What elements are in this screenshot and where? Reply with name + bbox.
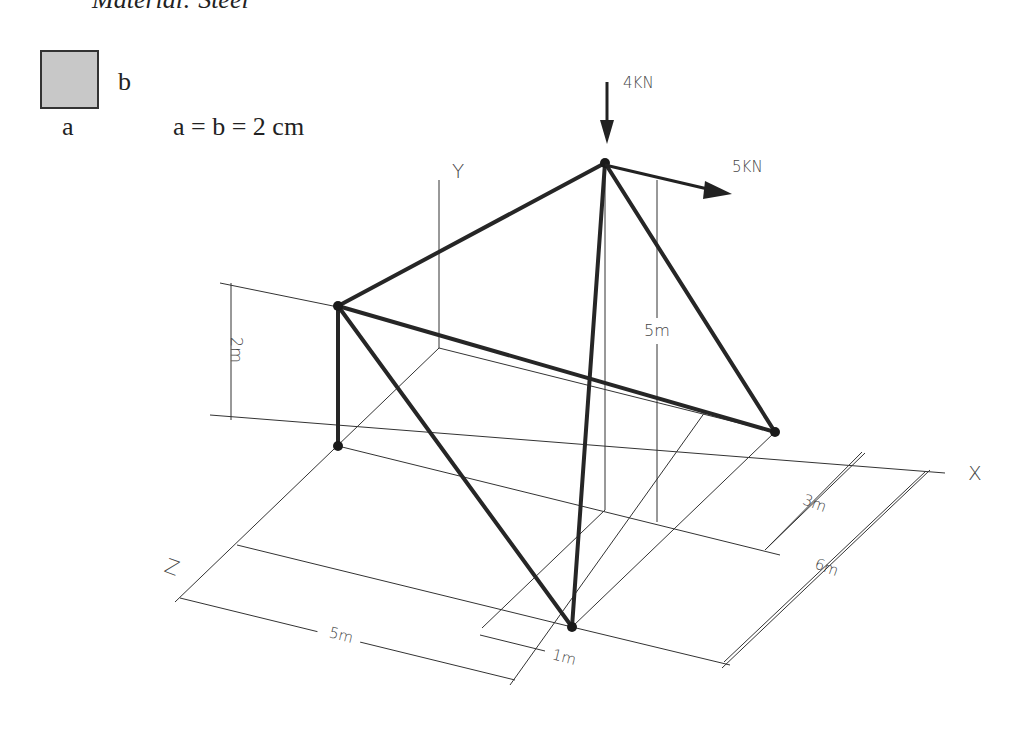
dimension-lines: 2m 5m 3m 6m 5m 1m (180, 180, 926, 680)
cross-section-square (41, 51, 98, 108)
axis-label-z: Z (162, 553, 183, 580)
load-4kn: 4KN (600, 74, 654, 144)
dim-5m-height: 5m (644, 321, 670, 340)
cross-section-label-b: b (118, 67, 131, 96)
truss-members (338, 163, 775, 627)
material-label: Material: Steel (91, 0, 249, 14)
load-5kn-label: 5KN (732, 158, 763, 176)
cross-section: b a a = b = 2 cm (41, 51, 304, 141)
load-5kn: 5KN (605, 158, 763, 199)
node-left-top (333, 301, 343, 311)
dim-1m: 1m (550, 645, 578, 668)
load-4kn-label: 4KN (623, 74, 654, 92)
node-front-base (567, 622, 577, 632)
axis-label-x: X (968, 461, 982, 485)
node-left-base (333, 441, 343, 451)
cross-section-label-a: a (62, 112, 74, 141)
axis-label-y: Y (452, 159, 464, 183)
cross-section-dimension: a = b = 2 cm (173, 112, 304, 141)
node-right-base (770, 427, 780, 437)
truss-nodes (333, 158, 780, 632)
dim-2m: 2m (227, 337, 246, 363)
space-truss-diagram: Material: Steel b a a = b = 2 cm (0, 0, 1027, 729)
